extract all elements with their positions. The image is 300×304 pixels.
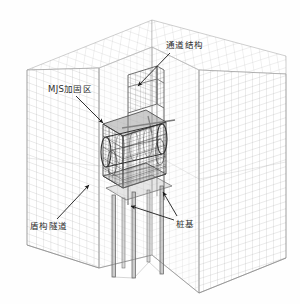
- pile: [147, 190, 150, 262]
- label-shield-tunnel: 盾构隧道: [30, 222, 67, 231]
- pile-bottom-line: [113, 262, 162, 278]
- figure-root: 通道结构 MJS加固区 盾构隧道 桩基: [0, 0, 300, 304]
- mesh-3d-model: [0, 0, 300, 304]
- mjs-reinforcement-zone: [101, 110, 167, 188]
- pile: [122, 198, 125, 268]
- pile: [112, 195, 116, 277]
- pile: [160, 186, 164, 274]
- soil-face-left: [27, 68, 99, 268]
- label-access-structure: 通道结构: [166, 41, 203, 50]
- soil-face-right: [199, 70, 286, 293]
- label-pile-foundation: 桩基: [176, 220, 195, 229]
- access-structure-right-panel: [157, 66, 164, 108]
- pile: [132, 192, 136, 278]
- label-mjs-reinforcement-zone: MJS加固区: [48, 85, 92, 94]
